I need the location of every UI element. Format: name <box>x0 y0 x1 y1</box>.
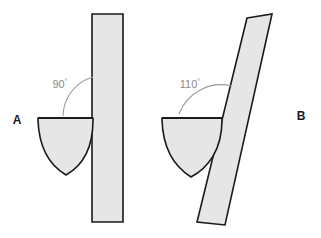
panel-a-fan-shape <box>38 118 93 175</box>
panel-b-letter: B <box>297 109 306 123</box>
panel-a-letter: A <box>13 113 22 127</box>
panel-a-angle-value: 90 <box>52 78 64 90</box>
panel-b-angle-label: 110° <box>180 78 201 90</box>
panel-b-group: 110° B <box>162 14 306 225</box>
angle-diagram-svg: 90° A 110° B <box>0 0 321 238</box>
figure-container: 90° A 110° B <box>0 0 321 238</box>
panel-a-angle-label: 90° <box>52 78 67 90</box>
panel-b-angle-value: 110 <box>180 78 198 90</box>
panel-a-group: 90° A <box>13 14 123 222</box>
panel-b-degree-symbol: ° <box>197 78 200 85</box>
panel-a-vertical-bar <box>92 14 123 222</box>
panel-a-degree-symbol: ° <box>65 78 68 85</box>
